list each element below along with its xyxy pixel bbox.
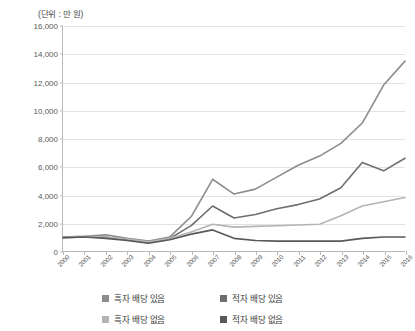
unit-label: (단위 : 만 원) bbox=[38, 7, 83, 19]
series-line bbox=[63, 61, 405, 241]
x-axis-tick-label: 2007 bbox=[206, 253, 221, 268]
x-axis-tick-label: 2003 bbox=[120, 253, 135, 268]
y-axis-tick-label: 8,000 bbox=[38, 135, 58, 144]
x-axis-tick-label: 2004 bbox=[142, 253, 157, 268]
x-axis-tick-label: 2009 bbox=[249, 253, 264, 268]
x-axis-tick-label: 2002 bbox=[99, 253, 114, 268]
legend-item[interactable]: 적자 배당 없음 bbox=[220, 313, 337, 325]
plot-area: 02,0004,0006,0008,00010,00012,00014,0001… bbox=[62, 26, 405, 252]
y-axis-tick-label: 10,000 bbox=[34, 106, 58, 115]
chart-legend: 흑자 배당 있음적자 배당 있음흑자 배당 없음적자 배당 없음 bbox=[102, 292, 337, 325]
legend-swatch-icon bbox=[102, 295, 109, 302]
legend-swatch-icon bbox=[220, 316, 227, 323]
series-lines bbox=[63, 26, 405, 251]
legend-label: 적자 배당 없음 bbox=[232, 313, 283, 325]
x-axis-tick-label: 2016 bbox=[399, 253, 414, 268]
chart-container: (단위 : 만 원) 02,0004,0006,0008,00010,00012… bbox=[0, 0, 415, 331]
x-axis-tick-label: 2010 bbox=[270, 253, 285, 268]
series-line bbox=[63, 158, 405, 242]
x-axis-tick-label: 2011 bbox=[292, 254, 306, 268]
legend-item[interactable]: 적자 배당 있음 bbox=[220, 292, 337, 304]
y-axis-tick-label: 4,000 bbox=[38, 191, 58, 200]
x-axis-tick-label: 2005 bbox=[163, 253, 178, 268]
legend-label: 흑자 배당 있음 bbox=[114, 292, 165, 304]
x-axis-tick-label: 2008 bbox=[227, 253, 242, 268]
y-axis-tick-label: 2,000 bbox=[38, 219, 58, 228]
legend-label: 적자 배당 있음 bbox=[232, 292, 283, 304]
plot-wrapper: 02,0004,0006,0008,00010,00012,00014,0001… bbox=[62, 26, 405, 252]
x-axis-tick-label: 2006 bbox=[185, 253, 200, 268]
x-axis-tick-label: 2012 bbox=[313, 253, 328, 268]
y-axis-tick-label: 12,000 bbox=[34, 78, 58, 87]
x-axis-tick-label: 2001 bbox=[77, 253, 92, 268]
y-axis-tick-label: 16,000 bbox=[34, 22, 58, 31]
legend-swatch-icon bbox=[220, 295, 227, 302]
y-axis-tick-label: 0 bbox=[54, 248, 58, 257]
x-axis-tick-label: 2013 bbox=[335, 253, 350, 268]
legend-swatch-icon bbox=[102, 316, 109, 323]
x-axis-tick-label: 2014 bbox=[356, 253, 371, 268]
legend-item[interactable]: 흑자 배당 있음 bbox=[102, 292, 220, 304]
legend-item[interactable]: 흑자 배당 없음 bbox=[102, 313, 220, 325]
x-axis-tick-label: 2000 bbox=[56, 253, 71, 268]
y-axis-tick-label: 6,000 bbox=[38, 163, 58, 172]
series-line bbox=[63, 198, 405, 242]
y-axis-tick-label: 14,000 bbox=[34, 50, 58, 59]
x-axis-tick-label: 2015 bbox=[377, 253, 392, 268]
legend-label: 흑자 배당 없음 bbox=[114, 313, 165, 325]
